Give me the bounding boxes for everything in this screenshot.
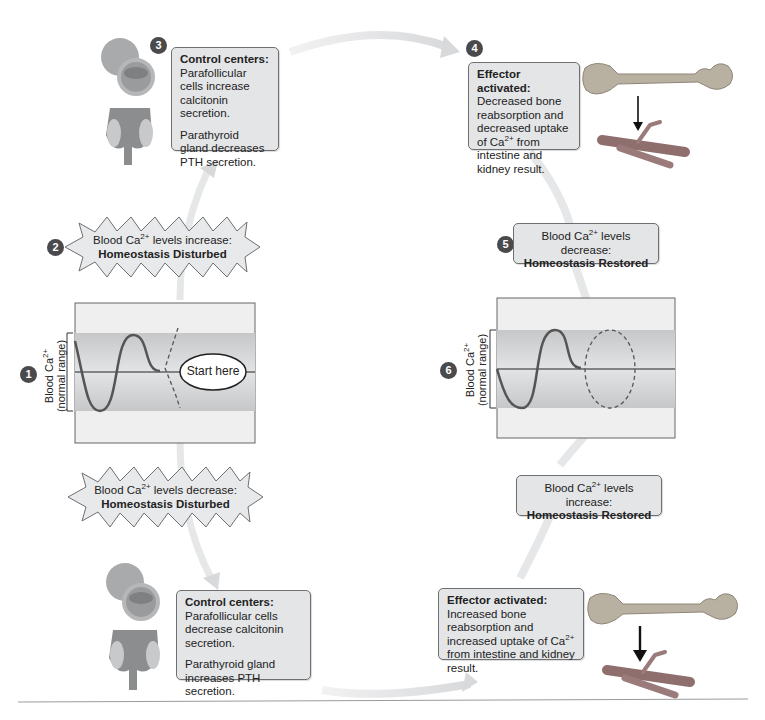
- range-bracket-right: [490, 330, 498, 410]
- step-badge-4: 4: [466, 40, 483, 57]
- bone-and-vessel-illustration-top: [580, 60, 740, 170]
- effector-box-bottom: Effector activated: Increased bone reabs…: [438, 588, 584, 660]
- step-badge-2: 2: [47, 239, 64, 256]
- bone-icon: [588, 593, 738, 624]
- thyroid-illustration-bottom: [105, 560, 165, 690]
- restored-increase-box: Blood Ca2+ levels increase: Homeostasis …: [516, 475, 662, 516]
- burst-disturbed-increase-text: Blood Ca2+ levels increase: Homeostasis …: [85, 233, 240, 261]
- control-centers-box-bottom: Control centers: Parafollicular cells de…: [176, 590, 311, 680]
- calcium-graph-right: [497, 298, 675, 438]
- ylabel-right: Blood Ca2+ (normal range): [464, 325, 488, 415]
- bone-and-vessel-illustration-bottom: [585, 590, 745, 700]
- thyroid-illustration-top: [100, 35, 160, 165]
- burst-disturbed-decrease-text: Blood Ca2+ levels decrease: Homeostasis …: [88, 483, 243, 511]
- step-badge-1: 1: [20, 366, 37, 383]
- effector-box-top: Effector activated: Decreased bone reabs…: [468, 62, 580, 150]
- bone-icon: [583, 63, 733, 94]
- blood-vessel-icon: [607, 670, 690, 682]
- restored-decrease-box: Blood Ca2+ levels decrease: Homeostasis …: [513, 223, 659, 264]
- ylabel-left: Blood Ca2+ (normal range): [43, 331, 67, 421]
- step-badge-5: 5: [497, 236, 514, 253]
- step-badge-6: 6: [440, 362, 457, 379]
- arrow-control-to-effector-top: [290, 35, 450, 52]
- arrow-lower-control-to-effector: [322, 684, 470, 694]
- blood-vessel-icon: [602, 140, 685, 152]
- range-bracket-left: [67, 333, 75, 413]
- step-badge-3: 3: [150, 37, 167, 54]
- control-centers-box-top: Control centers: Parafollicular cells in…: [171, 47, 279, 151]
- start-here-label: Start here: [181, 364, 245, 378]
